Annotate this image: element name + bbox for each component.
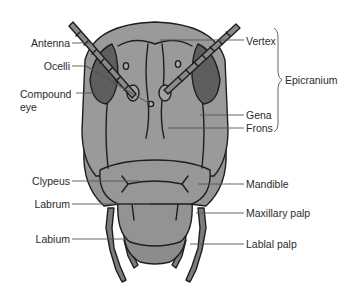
insect-head-diagram: Antenna Ocelli Compound eye Clypeus Labr… [0, 0, 357, 295]
label-mandible: Mandible [246, 178, 289, 190]
label-vertex: Vertex [246, 35, 276, 47]
label-clypeus: Clypeus [18, 175, 70, 187]
label-gena: Gena [246, 109, 272, 121]
label-labium: Labium [18, 233, 70, 245]
label-compound-eye: Compound [20, 88, 71, 100]
label-ocelli: Ocelli [20, 60, 70, 72]
label-maxillary-palp: Maxillary palp [246, 207, 310, 219]
label-labrum: Labrum [18, 198, 70, 210]
label-epicranium: Epicranium [285, 74, 338, 86]
label-labial-palp: Lablal palp [246, 238, 297, 250]
label-frons: Frons [246, 122, 273, 134]
label-antenna: Antenna [20, 37, 70, 49]
label-compound-eye-line2: eye [20, 101, 37, 113]
